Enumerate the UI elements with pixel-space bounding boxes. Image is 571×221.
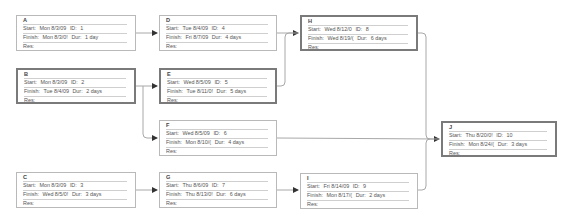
- task-node-h[interactable]: H Start: Wed 8/12/0 ID: 8 Finish: Wed 8/…: [300, 15, 418, 51]
- task-name: G: [160, 174, 276, 181]
- task-name: E: [161, 71, 275, 78]
- finish-row: Finish: Tue 8/4/09 Dur: 2 days: [24, 87, 126, 96]
- task-node-d[interactable]: D Start: Tue 8/4/09 ID: 4 Finish: Fri 8/…: [159, 15, 277, 51]
- link-f-j: [277, 138, 439, 139]
- network-diagram-canvas: A Start: Mon 8/3/09 ID: 1 Finish: Mon 8/…: [0, 0, 571, 221]
- finish-row: Finish: Mon 8/17/( Dur: 2 days: [307, 191, 409, 200]
- resource-row: Res:: [308, 43, 408, 52]
- task-name: J: [443, 124, 555, 131]
- task-node-e[interactable]: E Start: Wed 8/5/09 ID: 5 Finish: Tue 8/…: [159, 68, 277, 104]
- task-node-c[interactable]: C Start: Mon 8/3/09 ID: 3 Finish: Wed 8/…: [16, 172, 136, 208]
- start-row: Start: Thu 8/6/09 ID: 7: [166, 181, 268, 190]
- start-row: Start: Tue 8/4/09 ID: 4: [166, 24, 268, 33]
- finish-row: Finish: Mon 8/3/0! Dur: 1 day: [23, 33, 127, 42]
- start-row: Start: Mon 8/3/09 ID: 1: [23, 24, 127, 33]
- resource-row: Res:: [24, 96, 126, 105]
- resource-row: Res:: [449, 149, 547, 158]
- finish-row: Finish: Mon 8/10/( Dur: 4 days: [166, 138, 268, 147]
- task-node-b[interactable]: B Start: Mon 8/3/09 ID: 2 Finish: Tue 8/…: [16, 68, 136, 104]
- finish-row: Finish: Fri 8/7/09 Dur: 4 days: [166, 33, 268, 42]
- start-row: Start: Wed 8/12/0 ID: 8: [308, 25, 408, 34]
- task-name: I: [301, 175, 417, 182]
- task-node-a[interactable]: A Start: Mon 8/3/09 ID: 1 Finish: Mon 8/…: [16, 15, 136, 51]
- start-row: Start: Mon 8/3/09 ID: 3: [23, 181, 127, 190]
- task-node-f[interactable]: F Start: Wed 8/5/09 ID: 6 Finish: Mon 8/…: [159, 120, 277, 156]
- resource-row: Res:: [23, 42, 127, 51]
- task-node-i[interactable]: I Start: Fri 8/14/09 ID: 9 Finish: Mon 8…: [300, 173, 418, 209]
- task-name: A: [17, 17, 135, 24]
- task-name: B: [18, 71, 134, 78]
- link-e-h: [277, 33, 298, 86]
- link-h-j: [418, 33, 439, 139]
- start-row: Start: Fri 8/14/09 ID: 9: [307, 182, 409, 191]
- task-name: H: [302, 18, 416, 25]
- start-row: Start: Thu 8/20/0! ID: 10: [449, 131, 547, 140]
- finish-row: Finish: Wed 8/5/0! Dur: 3 days: [23, 190, 127, 199]
- task-name: C: [17, 174, 135, 181]
- resource-row: Res:: [166, 42, 268, 51]
- finish-row: Finish: Tue 8/11/0! Dur: 5 days: [167, 87, 267, 96]
- finish-row: Finish: Thu 8/13/0! Dur: 6 days: [166, 190, 268, 199]
- start-row: Start: Mon 8/3/09 ID: 2: [24, 78, 126, 87]
- task-node-g[interactable]: G Start: Thu 8/6/09 ID: 7 Finish: Thu 8/…: [159, 172, 277, 208]
- resource-row: Res:: [307, 200, 409, 209]
- finish-row: Finish: Wed 8/19/( Dur: 6 days: [308, 34, 408, 43]
- task-name: D: [160, 17, 276, 24]
- resource-row: Res:: [166, 147, 268, 156]
- link-i-j: [418, 139, 430, 190]
- resource-row: Res:: [167, 96, 267, 105]
- finish-row: Finish: Mon 8/24/( Dur: 3 days: [449, 140, 547, 149]
- task-node-j[interactable]: J Start: Thu 8/20/0! ID: 10 Finish: Mon …: [441, 121, 557, 157]
- task-name: F: [160, 122, 276, 129]
- start-row: Start: Wed 8/5/09 ID: 6: [166, 129, 268, 138]
- resource-row: Res:: [166, 199, 268, 208]
- link-b-f: [143, 86, 157, 138]
- start-row: Start: Wed 8/5/09 ID: 5: [167, 78, 267, 87]
- resource-row: Res:: [23, 199, 127, 208]
